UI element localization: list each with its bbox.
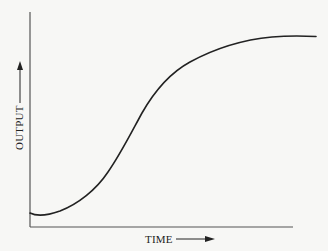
y-axis-label: OUTPUT <box>13 105 25 150</box>
x-axis-label: TIME <box>145 233 173 245</box>
x-axis-arrow-head-icon <box>205 236 215 242</box>
output-curve <box>30 36 316 215</box>
y-axis-arrow-head-icon <box>17 61 23 70</box>
sigmoid-chart: OUTPUT TIME <box>0 0 328 251</box>
y-axis-label-group: OUTPUT <box>13 61 25 150</box>
x-axis-label-group: TIME <box>145 233 215 245</box>
